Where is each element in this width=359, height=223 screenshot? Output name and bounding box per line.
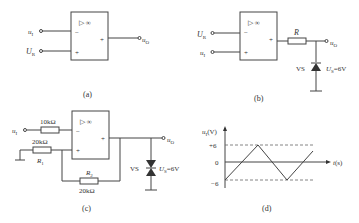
svg-text:10kΩ: 10kΩ — [40, 118, 56, 126]
x-axis-arrow — [326, 160, 331, 164]
svg-text:+: + — [76, 147, 80, 155]
zener-diode-c-top — [146, 160, 156, 168]
svg-text:20kΩ: 20kΩ — [79, 187, 95, 195]
svg-text:VS: VS — [296, 65, 305, 73]
panel-b: ▷ ∞ − + + UR uI R uO VS US=6V (b) — [197, 12, 346, 103]
zener-diode-c-bottom — [146, 168, 156, 176]
svg-text:−6: −6 — [211, 180, 219, 188]
svg-text:uI: uI — [12, 127, 18, 136]
caption-d: (d) — [262, 204, 272, 213]
label-uo-a: uO — [142, 36, 150, 45]
caption-c: (c) — [82, 204, 91, 213]
svg-text:+: + — [244, 49, 248, 57]
label-ur-a: UR — [26, 47, 36, 57]
svg-text:▷ ∞: ▷ ∞ — [80, 118, 92, 126]
svg-text:US=6V: US=6V — [326, 65, 346, 74]
resistor-r1 — [33, 147, 51, 153]
input-terminal-ur-b — [211, 32, 214, 35]
svg-text:R2: R2 — [85, 169, 93, 178]
output-terminal-a — [138, 37, 141, 40]
resistor-10k — [41, 127, 59, 133]
svg-text:+: + — [75, 49, 79, 57]
input-terminal-ui-c — [24, 129, 27, 132]
svg-text:US=6V: US=6V — [159, 165, 179, 174]
zener-diode-b — [311, 63, 321, 71]
svg-text:+: + — [100, 36, 104, 44]
input-terminal-ui-b — [211, 51, 214, 54]
input-terminal-ui-a — [40, 30, 43, 33]
svg-text:+: + — [269, 36, 273, 44]
caption-b: (b) — [254, 94, 264, 103]
output-terminal-b — [325, 40, 328, 43]
svg-text:uO: uO — [167, 136, 175, 145]
panel-c: ▷ ∞ − + + uI 10kΩ 20kΩ R1 R2 20kΩ uO — [12, 111, 179, 213]
svg-text:−: − — [244, 29, 248, 37]
svg-text:t(s): t(s) — [333, 159, 343, 167]
svg-text:+: + — [101, 135, 105, 143]
svg-text:−: − — [75, 29, 79, 37]
y-axis-arrow — [223, 126, 227, 131]
svg-text:20kΩ: 20kΩ — [32, 138, 48, 146]
svg-text:VS: VS — [130, 165, 139, 173]
svg-text:0: 0 — [215, 159, 219, 167]
svg-text:uI(V): uI(V) — [202, 128, 218, 137]
resistor-r2 — [80, 178, 98, 184]
svg-text:R1: R1 — [36, 157, 44, 166]
panel-d: uI(V) +6 0 −6 t(s) (d) — [202, 126, 343, 213]
svg-text:−: − — [76, 128, 80, 136]
caption-a: (a) — [83, 90, 92, 99]
svg-text:UR: UR — [197, 30, 207, 40]
opamp-a-symbol: ▷ ∞ — [79, 19, 91, 27]
svg-text:uO: uO — [330, 39, 338, 48]
resistor-r-b — [288, 38, 306, 44]
svg-text:R: R — [293, 28, 299, 37]
input-terminal-ur-a — [40, 50, 43, 53]
svg-text:uI: uI — [200, 49, 206, 58]
circuit-diagrams: ▷ ∞ − + + uI UR uO (a) ▷ ∞ − + + UR uI R… — [0, 0, 359, 223]
label-ui-a: uI — [28, 28, 34, 37]
output-terminal-c — [162, 137, 165, 140]
svg-text:▷ ∞: ▷ ∞ — [248, 19, 260, 27]
panel-a: ▷ ∞ − + + uI UR uO (a) — [26, 12, 150, 99]
svg-text:+6: +6 — [209, 142, 217, 150]
